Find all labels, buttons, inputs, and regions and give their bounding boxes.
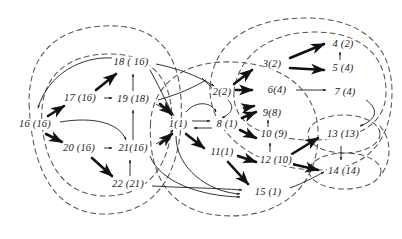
- node-label-21: 21(16): [117, 143, 148, 154]
- right-inner-region: [234, 32, 386, 140]
- node-label-16: 16 (16): [18, 119, 52, 130]
- node-label-13: 13 (13): [326, 129, 360, 140]
- graph-figure: 1(1) 2(2) 3(2) 4 (2) 5 (4) 6(4) 7 (4) 8 …: [0, 0, 402, 239]
- graph-canvas: [0, 0, 402, 239]
- node-label-14: 14 (14): [327, 166, 361, 177]
- node-label-20: 20 (16): [62, 143, 96, 154]
- node-label-2: 2(2): [212, 87, 232, 98]
- region-13-14-connector: [380, 126, 389, 176]
- node-label-9: 9(8): [262, 108, 282, 119]
- thin-edges: [38, 52, 375, 197]
- node-label-3: 3(2): [262, 59, 282, 70]
- node-label-6: 6(4): [267, 85, 287, 96]
- node-label-12: 12 (10): [259, 155, 293, 166]
- node-label-8: 8 (1): [215, 119, 238, 130]
- node-label-10: 10 (9): [260, 129, 289, 140]
- node-label-11: 11(1): [210, 147, 235, 158]
- node-label-19: 19 (18): [116, 94, 150, 105]
- node-label-5: 5 (4): [331, 63, 354, 74]
- node-label-17: 17 (16): [63, 93, 97, 104]
- node-label-15: 15 (1): [254, 187, 283, 198]
- node-label-1: 1(1): [168, 119, 188, 130]
- node-label-4: 4 (2): [331, 39, 354, 50]
- node-label-7: 7 (4): [333, 87, 356, 98]
- left-inner-region: [40, 52, 175, 198]
- node-label-18: 18 ( 16): [113, 57, 150, 68]
- node-label-22: 22 (21): [111, 179, 145, 190]
